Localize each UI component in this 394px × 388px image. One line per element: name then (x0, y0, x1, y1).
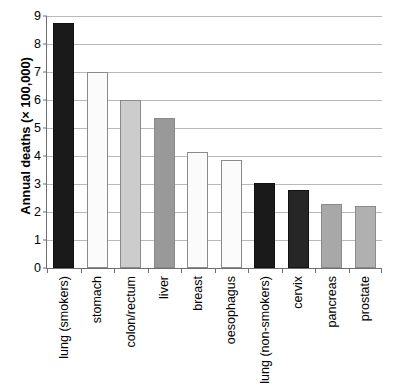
y-tick-label: 1 (34, 233, 41, 247)
plot-area: 0123456789 (47, 16, 382, 268)
x-label-slot: lung (non-smokers) (248, 276, 282, 388)
bar-slot (181, 16, 215, 268)
x-axis-label: pancreas (326, 276, 339, 327)
bar[interactable] (187, 152, 208, 268)
bar[interactable] (120, 100, 141, 268)
x-label-slot: cervix (282, 276, 316, 388)
x-label-slot: liver (148, 276, 182, 388)
x-axis-label: prostate (359, 276, 372, 321)
y-tick-label: 9 (34, 9, 41, 23)
bar[interactable] (254, 183, 275, 268)
x-label-slot: prostate (349, 276, 383, 388)
bar-slot (349, 16, 383, 268)
x-tick-mark (181, 268, 182, 273)
x-tick-mark (282, 268, 283, 273)
x-tick-mark (215, 268, 216, 273)
x-axis-label: lung (smokers) (58, 276, 71, 359)
x-tick-mark (248, 268, 249, 273)
bars-container (47, 16, 382, 268)
x-tick-mark (114, 268, 115, 273)
x-label-slot: breast (181, 276, 215, 388)
bar-slot (47, 16, 81, 268)
x-axis-label: cervix (292, 276, 305, 309)
y-tick-label: 3 (34, 177, 41, 191)
y-tick-label: 4 (34, 149, 41, 163)
y-tick-label: 0 (34, 261, 41, 275)
x-label-slot: stomach (81, 276, 115, 388)
bar-slot (248, 16, 282, 268)
bar[interactable] (288, 190, 309, 268)
x-axis-label: liver (158, 276, 171, 299)
bar-slot (148, 16, 182, 268)
bar-slot (215, 16, 249, 268)
x-tick-mark (148, 268, 149, 273)
bar-slot (114, 16, 148, 268)
x-axis-label: lung (non-smokers) (259, 276, 272, 384)
bar-slot (282, 16, 316, 268)
x-label-slot: pancreas (315, 276, 349, 388)
x-label-slot: lung (smokers) (47, 276, 81, 388)
bar-chart: Annual deaths (× 100,000) 0123456789 lun… (0, 0, 394, 388)
x-tick-mark (47, 268, 48, 273)
bar-slot (81, 16, 115, 268)
bar[interactable] (355, 206, 376, 268)
x-axis-labels: lung (smokers)stomachcolon/rectumliverbr… (47, 276, 382, 388)
y-tick-label: 8 (34, 37, 41, 51)
x-axis-label: oesophagus (225, 276, 238, 344)
x-label-slot: colon/rectum (114, 276, 148, 388)
bar[interactable] (321, 204, 342, 268)
bar[interactable] (87, 72, 108, 268)
x-label-slot: oesophagus (215, 276, 249, 388)
bar-slot (315, 16, 349, 268)
y-tick-label: 2 (34, 205, 41, 219)
y-tick-label: 6 (34, 93, 41, 107)
x-tick-mark (81, 268, 82, 273)
bar[interactable] (221, 160, 242, 268)
x-axis-label: stomach (91, 276, 104, 323)
x-tick-mark (381, 268, 382, 273)
bar[interactable] (53, 23, 74, 268)
x-axis-label: breast (192, 276, 205, 311)
y-axis-title: Annual deaths (× 100,000) (14, 2, 36, 270)
x-tick-mark (349, 268, 350, 273)
bar[interactable] (154, 118, 175, 268)
x-axis-label: colon/rectum (125, 276, 138, 348)
y-tick-label: 5 (34, 121, 41, 135)
x-tick-mark (315, 268, 316, 273)
y-tick-label: 7 (34, 65, 41, 79)
